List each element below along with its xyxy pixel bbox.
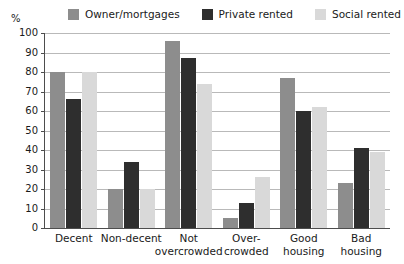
y-axis-tick-label: 100	[19, 28, 38, 38]
bar-group	[280, 33, 327, 228]
bar	[370, 152, 385, 228]
y-axis-tick-label: 60	[25, 106, 38, 116]
plot-area: 0102030405060708090100	[45, 33, 390, 228]
bar	[255, 177, 270, 228]
bar-group	[50, 33, 97, 228]
bar-group	[108, 33, 155, 228]
bar	[82, 72, 97, 228]
chart-legend: Owner/mortgagesPrivate rentedSocial rent…	[68, 6, 401, 22]
legend-label: Private rented	[219, 9, 293, 20]
bar-group	[223, 33, 270, 228]
bar	[108, 189, 123, 228]
bar	[181, 58, 196, 228]
legend-label: Owner/mortgages	[85, 9, 180, 20]
legend-swatch-icon	[315, 9, 326, 20]
legend-entry: Owner/mortgages	[68, 9, 180, 20]
y-axis-tick-label: 40	[25, 145, 38, 155]
bar	[66, 99, 81, 228]
bar	[124, 162, 139, 228]
y-axis-tick-label: 50	[25, 126, 38, 136]
bar	[296, 111, 311, 228]
bar	[223, 218, 238, 228]
y-axis-unit-label: %	[11, 13, 21, 24]
x-axis-category-label-line: housing	[318, 245, 404, 258]
x-axis-category-label-line: Bad	[318, 232, 404, 245]
y-axis-tick-label: 20	[25, 184, 38, 194]
bar	[197, 84, 212, 228]
x-axis-category-labels: DecentNon-decentNotovercrowdedOver-crowd…	[45, 232, 390, 264]
y-axis-tick-mark	[41, 228, 45, 229]
legend-label: Social rented	[332, 9, 401, 20]
legend-entry: Private rented	[202, 9, 293, 20]
bar	[312, 107, 327, 228]
bar	[280, 78, 295, 228]
bar-group	[165, 33, 212, 228]
gridline	[45, 228, 390, 229]
legend-swatch-icon	[202, 9, 213, 20]
y-axis-tick-label: 10	[25, 204, 38, 214]
bar-groups	[45, 33, 390, 228]
bar	[354, 148, 369, 228]
bar	[50, 72, 65, 228]
y-axis-tick-label: 80	[25, 67, 38, 77]
bar	[165, 41, 180, 228]
legend-swatch-icon	[68, 9, 79, 20]
y-axis-tick-label: 30	[25, 165, 38, 175]
bar	[338, 183, 353, 228]
bar-group	[338, 33, 385, 228]
bar	[140, 189, 155, 228]
legend-entry: Social rented	[315, 9, 401, 20]
y-axis-tick-label: 70	[25, 87, 38, 97]
x-axis-category-label: Badhousing	[318, 232, 404, 258]
bar	[239, 203, 254, 228]
y-axis-tick-label: 90	[25, 48, 38, 58]
